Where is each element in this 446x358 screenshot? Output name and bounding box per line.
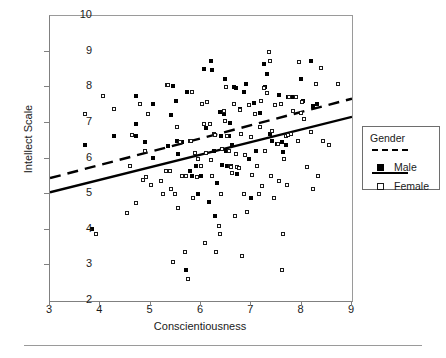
data-point-male	[143, 140, 147, 144]
data-point-female	[299, 111, 303, 115]
data-point-female	[289, 132, 293, 136]
data-point-male	[281, 150, 285, 154]
data-point-female	[262, 86, 266, 90]
data-point-female	[195, 175, 199, 179]
data-point-female	[161, 192, 165, 196]
data-point-male	[215, 181, 219, 185]
data-point-female	[168, 169, 172, 173]
data-point-male	[171, 84, 175, 88]
data-point-female	[238, 108, 242, 112]
data-point-female	[209, 158, 213, 162]
data-point-female	[200, 102, 204, 106]
data-point-female	[309, 130, 313, 134]
data-point-male	[262, 62, 266, 66]
data-point-female	[217, 224, 221, 228]
data-point-female	[287, 95, 291, 99]
y-tick-mark	[44, 158, 49, 159]
data-point-female	[183, 250, 187, 254]
data-point-male	[169, 113, 173, 117]
y-tick-mark	[44, 122, 49, 123]
data-point-female	[265, 91, 269, 95]
data-point-female	[245, 210, 249, 214]
data-point-female	[112, 107, 116, 111]
y-tick-label: 3	[32, 258, 92, 269]
data-point-female	[327, 143, 331, 147]
female-marker-swatch-icon	[377, 183, 384, 190]
data-point-male	[112, 134, 116, 138]
data-point-male	[247, 157, 251, 161]
data-point-female	[219, 192, 223, 196]
data-point-male	[202, 67, 206, 71]
data-point-female	[208, 122, 212, 126]
data-point-female	[144, 175, 148, 179]
data-point-female	[280, 268, 284, 272]
data-point-female	[213, 133, 217, 137]
data-point-female	[138, 102, 142, 106]
y-tick-label: 10	[32, 9, 92, 20]
y-tick-mark	[44, 229, 49, 230]
data-point-male	[210, 68, 214, 72]
data-point-male	[194, 164, 198, 168]
legend-title: Gender	[370, 132, 405, 144]
data-point-male	[235, 172, 239, 176]
data-point-male	[284, 143, 288, 147]
data-point-female	[336, 82, 340, 86]
data-point-female	[203, 241, 207, 245]
legend-dashed-line-swatch	[372, 149, 408, 151]
x-tick-mark	[200, 301, 201, 306]
data-point-female	[205, 100, 209, 104]
data-point-male	[242, 90, 246, 94]
data-point-female	[268, 59, 272, 63]
data-point-female	[302, 117, 306, 121]
data-point-female	[223, 119, 227, 123]
data-point-female	[282, 157, 286, 161]
data-point-female	[204, 151, 208, 155]
data-point-male	[134, 94, 138, 98]
data-point-female	[169, 187, 173, 191]
data-point-male	[151, 102, 155, 106]
data-point-female	[294, 95, 298, 99]
data-point-female	[243, 153, 247, 157]
data-point-male	[258, 111, 262, 115]
data-point-female	[232, 102, 236, 106]
data-point-male	[212, 149, 216, 153]
x-tick-mark	[301, 301, 302, 306]
data-point-male	[190, 174, 194, 178]
data-point-female	[193, 151, 197, 155]
y-tick-label: 8	[32, 80, 92, 91]
data-points-layer	[50, 16, 352, 301]
data-point-female	[255, 164, 259, 168]
data-point-male	[184, 268, 188, 272]
data-point-male	[185, 90, 189, 94]
data-point-female	[258, 125, 262, 129]
male-marker-swatch-icon	[377, 164, 384, 171]
data-point-female	[234, 152, 238, 156]
legend-label-female: Female	[394, 180, 429, 192]
data-point-female	[227, 149, 231, 153]
data-point-female	[314, 82, 318, 86]
y-tick-mark	[44, 264, 49, 265]
y-tick-label: 5	[32, 187, 92, 198]
data-point-male	[249, 196, 253, 200]
y-axis-title: Intellect Scale	[22, 59, 34, 219]
y-tick-mark	[44, 193, 49, 194]
x-tick-mark	[250, 301, 251, 306]
data-point-male	[83, 143, 87, 147]
data-point-female	[242, 192, 246, 196]
data-point-female	[184, 174, 188, 178]
data-point-male	[204, 126, 208, 130]
data-point-female	[128, 164, 132, 168]
data-point-female	[171, 260, 175, 264]
data-point-female	[125, 211, 129, 215]
data-point-female	[273, 103, 277, 107]
data-point-female	[269, 174, 273, 178]
data-point-male	[220, 163, 224, 167]
data-point-female	[175, 125, 179, 129]
data-point-female	[214, 250, 218, 254]
legend-solid-line-swatch	[372, 172, 408, 174]
data-point-male	[199, 174, 203, 178]
data-point-female	[279, 102, 283, 106]
data-point-male	[176, 152, 180, 156]
data-point-female	[250, 173, 254, 177]
legend-item-female: Female	[363, 179, 441, 193]
